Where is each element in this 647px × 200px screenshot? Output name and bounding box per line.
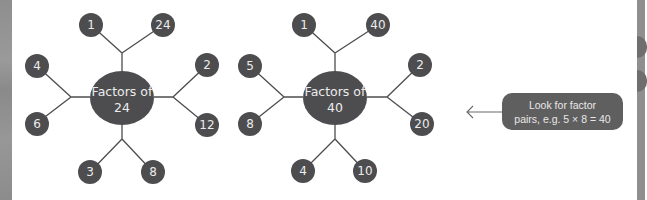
- diagram-factors-of-40: Factors of 40 1 40 5 8 2 20 4 10: [238, 13, 434, 183]
- svg-text:8: 8: [246, 117, 254, 131]
- factor-node: 2: [408, 53, 432, 77]
- svg-text:1: 1: [87, 18, 95, 32]
- factor-node: 10: [353, 159, 377, 183]
- factor-node: 4: [25, 54, 49, 78]
- svg-text:5: 5: [246, 59, 254, 73]
- svg-text:6: 6: [33, 117, 41, 131]
- callout-line1: Look for factor: [502, 98, 623, 112]
- svg-text:2: 2: [416, 58, 424, 72]
- svg-text:8: 8: [149, 165, 157, 179]
- factor-node: 24: [151, 13, 175, 37]
- svg-text:10: 10: [357, 164, 372, 178]
- svg-text:2: 2: [203, 58, 211, 72]
- factor-node: 2: [195, 53, 219, 77]
- callout-hint: Look for factor pairs, e.g. 5 × 8 = 40: [502, 93, 623, 130]
- hub-label-line1: Factors of: [305, 84, 366, 99]
- factor-node: 12: [195, 113, 219, 137]
- callout-line2: pairs, e.g. 5 × 8 = 40: [502, 112, 623, 126]
- factor-node: 6: [25, 112, 49, 136]
- svg-text:4: 4: [299, 164, 307, 178]
- svg-text:24: 24: [155, 18, 170, 32]
- factor-node: 5: [238, 54, 262, 78]
- hub-label-line1: Factors of: [92, 84, 153, 99]
- svg-text:1: 1: [300, 18, 308, 32]
- top-branch-lines: [91, 25, 163, 72]
- svg-text:20: 20: [414, 117, 429, 131]
- factor-node: 8: [238, 112, 262, 136]
- factor-node: 40: [366, 13, 390, 37]
- right-branch-lines: [154, 65, 207, 125]
- factor-node: 1: [79, 13, 103, 37]
- svg-text:40: 40: [370, 18, 385, 32]
- hub-label-line2: 40: [327, 100, 343, 115]
- svg-text:12: 12: [199, 118, 214, 132]
- factor-node: 4: [291, 159, 315, 183]
- svg-text:4: 4: [33, 59, 41, 73]
- top-branch-lines: [304, 25, 378, 72]
- factor-node: 20: [410, 112, 434, 136]
- arrow-left-icon: [467, 106, 502, 118]
- factor-node: 8: [141, 160, 165, 184]
- factor-node: 3: [78, 160, 102, 184]
- diagram-factors-of-24: Factors of 24 1 24 4 6 2 12 3 8: [25, 13, 219, 184]
- svg-text:3: 3: [86, 165, 94, 179]
- hub-label-line2: 24: [114, 100, 130, 115]
- factor-node: 1: [292, 13, 316, 37]
